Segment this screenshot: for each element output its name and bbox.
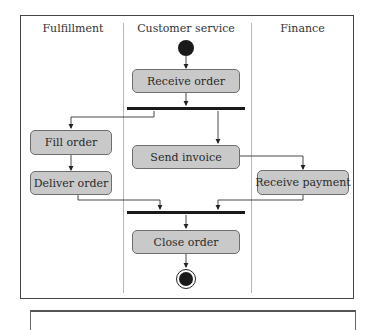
- activity-label: Close order: [154, 236, 219, 249]
- join-bar: [127, 211, 245, 214]
- final-node-dot: [179, 272, 193, 286]
- final-node: [176, 269, 196, 289]
- activity-label: Receive order: [147, 75, 225, 88]
- activity-label: Fill order: [45, 136, 97, 149]
- activity-receive-payment[interactable]: Receive payment: [257, 170, 349, 195]
- activity-send-invoice[interactable]: Send invoice: [132, 145, 240, 169]
- secondary-frame: [30, 310, 356, 330]
- activity-deliver-order[interactable]: Deliver order: [30, 171, 112, 195]
- activity-close-order[interactable]: Close order: [132, 230, 240, 254]
- activity-label: Receive payment: [255, 176, 350, 189]
- initial-node: [178, 40, 194, 56]
- activity-receive-order[interactable]: Receive order: [132, 69, 240, 93]
- activity-fill-order[interactable]: Fill order: [30, 130, 112, 155]
- fork-bar: [127, 107, 245, 110]
- activity-label: Deliver order: [34, 177, 109, 190]
- activity-label: Send invoice: [150, 151, 221, 164]
